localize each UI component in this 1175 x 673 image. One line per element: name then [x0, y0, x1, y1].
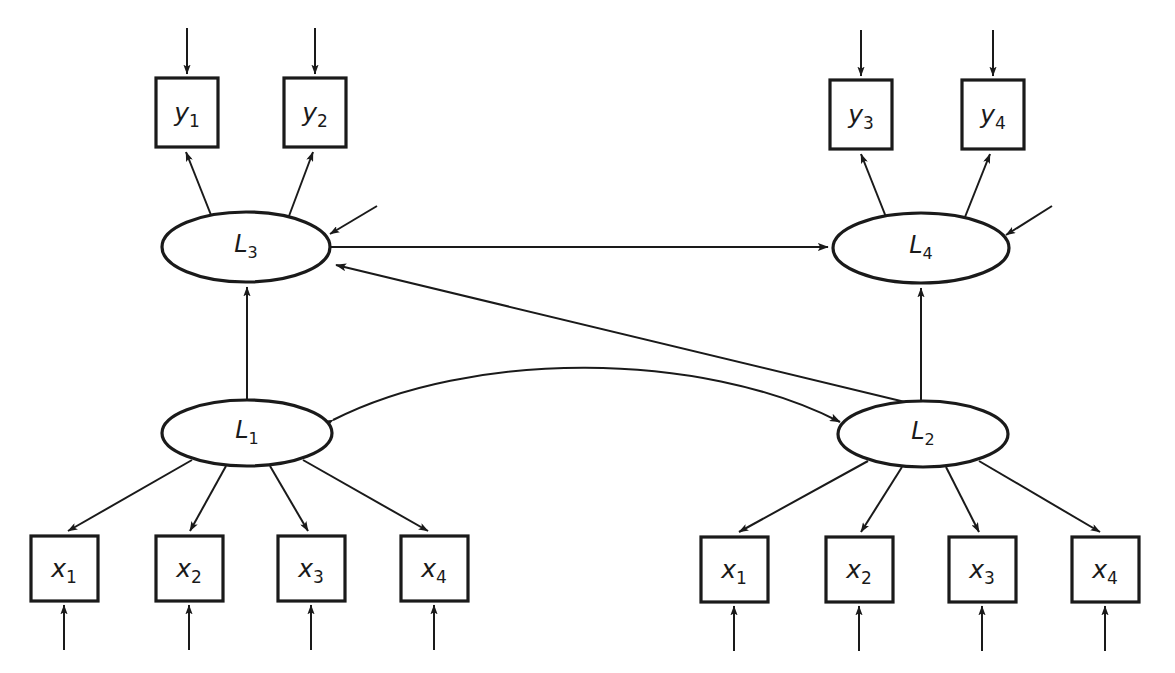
observed-node-y2[interactable]: y2 [284, 78, 346, 147]
loading-arrow-L2-rx1 [739, 461, 868, 532]
loading-arrow-L2-rx4 [979, 461, 1100, 532]
structural-paths [247, 247, 921, 422]
diagram-canvas: y1 y2 y3 y4 x1 x2 [0, 0, 1175, 673]
observed-node-left-x4[interactable]: x4 [401, 536, 468, 601]
loading-arrow-L1-lx4 [303, 460, 428, 531]
observed-node-right-x2[interactable]: x2 [826, 537, 893, 602]
error-arrows-y [187, 28, 993, 76]
loading-arrow-L4-y4 [965, 154, 990, 217]
disturbance-arrow-L3 [330, 206, 377, 234]
latent-node-L2[interactable]: L2 [838, 401, 1008, 467]
loading-paths-L2 [739, 461, 1100, 532]
structural-path-L2-L3 [336, 265, 905, 402]
latent-variable-ellipses: L3 L4 L1 L2 [162, 212, 1009, 467]
observed-node-left-x2[interactable]: x2 [156, 536, 223, 601]
observed-variable-boxes: y1 y2 y3 y4 x1 x2 [31, 78, 1139, 602]
loading-arrow-L3-y2 [289, 152, 313, 216]
latent-node-L3[interactable]: L3 [162, 212, 330, 282]
observed-node-right-x4[interactable]: x4 [1072, 537, 1139, 602]
disturbance-arrow-L4 [1006, 206, 1052, 235]
loading-arrow-L3-y1 [186, 152, 211, 215]
loading-arrow-L1-lx2 [190, 466, 226, 531]
error-arrows-x [64, 605, 1105, 651]
loading-paths-L4 [861, 154, 990, 217]
observed-node-left-x3[interactable]: x3 [278, 536, 345, 601]
latent-node-L1[interactable]: L1 [162, 400, 332, 466]
observed-node-left-x1[interactable]: x1 [31, 536, 98, 601]
covariance-curve-L1-L2 [333, 368, 840, 422]
loading-arrow-L4-y3 [861, 154, 886, 217]
observed-node-y1[interactable]: y1 [156, 78, 218, 147]
loading-arrow-L2-rx3 [946, 467, 979, 532]
loading-arrow-L2-rx2 [861, 467, 902, 532]
observed-node-right-x3[interactable]: x3 [949, 537, 1016, 602]
sem-path-diagram: y1 y2 y3 y4 x1 x2 [0, 0, 1175, 673]
observed-node-right-x1[interactable]: x1 [701, 537, 768, 602]
loading-arrow-L1-lx3 [270, 466, 308, 531]
loading-arrow-L1-lx1 [68, 460, 192, 531]
loading-paths-L3 [186, 152, 313, 216]
loading-paths-L1 [68, 460, 428, 531]
observed-node-y3[interactable]: y3 [830, 80, 892, 149]
observed-node-y4[interactable]: y4 [962, 80, 1024, 149]
latent-node-L4[interactable]: L4 [833, 213, 1009, 283]
